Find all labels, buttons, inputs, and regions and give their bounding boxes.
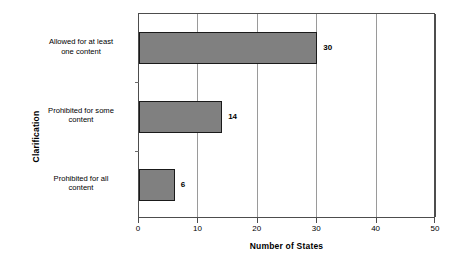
y-axis-tick-label: Prohibited for some content xyxy=(28,106,134,125)
x-axis-tick xyxy=(376,218,377,223)
x-axis-tick-labels: 01020304050 xyxy=(138,224,435,238)
y-axis-tick-label: Allowed for at least one content xyxy=(28,37,134,56)
y-axis-tick-label-line2: content xyxy=(69,183,94,192)
gridline-x-40 xyxy=(376,14,377,217)
plot-area: 30146 xyxy=(138,13,435,218)
x-axis-tick-label: 50 xyxy=(431,224,440,233)
plot-right-edge xyxy=(435,14,436,217)
x-axis-tick-label: 0 xyxy=(136,224,140,233)
bar-value-label: 30 xyxy=(323,43,332,52)
x-axis-tick-label: 40 xyxy=(371,224,380,233)
y-axis-tick xyxy=(135,151,139,152)
x-axis-tick xyxy=(316,218,317,223)
x-axis-title: Number of States xyxy=(138,241,435,251)
bar-chart: Clarification Allowed for at least one c… xyxy=(0,0,466,273)
x-axis-tick xyxy=(197,218,198,223)
y-axis-tick xyxy=(135,82,139,83)
x-axis-tick xyxy=(138,218,139,223)
y-axis-tick-label-line1: Prohibited for some xyxy=(48,106,114,115)
bar xyxy=(139,101,222,133)
bar xyxy=(139,169,175,201)
y-axis-tick-label-line1: Prohibited for all xyxy=(54,174,109,183)
x-axis-tick xyxy=(257,218,258,223)
bar xyxy=(139,32,317,64)
y-axis-tick-labels: Allowed for at least one content Prohibi… xyxy=(28,13,134,218)
plot-inner: 30146 xyxy=(139,14,434,217)
x-axis-tick-label: 30 xyxy=(312,224,321,233)
y-axis-tick-label-line2: one content xyxy=(61,47,101,56)
y-axis-tick-label-line1: Allowed for at least xyxy=(49,37,113,46)
x-axis-tick xyxy=(434,218,435,223)
y-axis-tick-label-line2: content xyxy=(69,115,94,124)
bar-value-label: 6 xyxy=(181,180,185,189)
y-axis-tick-label: Prohibited for all content xyxy=(28,174,134,193)
x-axis-tick-label: 20 xyxy=(252,224,261,233)
bar-value-label: 14 xyxy=(228,112,237,121)
x-axis-tick-label: 10 xyxy=(193,224,202,233)
